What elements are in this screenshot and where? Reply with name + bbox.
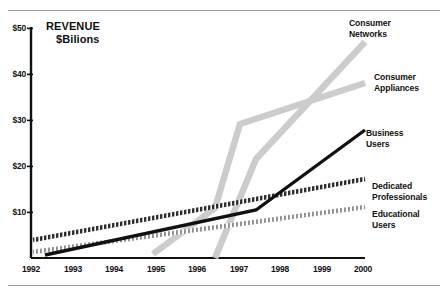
series-label-business-users-line1: Business: [366, 128, 403, 138]
series-label-business-users: Business Users: [366, 128, 403, 149]
series-label-consumer-networks-line1: Consumer: [349, 18, 391, 28]
x-tick-label-1994: 1994: [97, 265, 131, 274]
x-tick-label-1992: 1992: [14, 265, 48, 274]
series-label-educational-users-line1: Educational: [372, 209, 420, 219]
series-label-business-users-line2: Users: [366, 139, 389, 149]
series-label-dedicated-professionals-line1: Dedicated: [372, 181, 412, 191]
revenue-chart-figure: REVENUE $Bilions: [0, 0, 448, 294]
x-tick-label-1993: 1993: [56, 265, 90, 274]
series-label-consumer-appliances-line1: Consumer: [374, 72, 416, 82]
series-label-consumer-networks-line2: Networks: [349, 29, 387, 39]
series-label-educational-users: Educational Users: [372, 209, 420, 230]
series-line-business-users: [45, 130, 365, 255]
series-label-educational-users-line2: Users: [372, 220, 395, 230]
series-label-consumer-networks: Consumer Networks: [349, 18, 391, 39]
y-tick-label-50: $50: [2, 24, 26, 33]
y-tick-label-40: $40: [2, 70, 26, 79]
x-tick-label-1998: 1998: [263, 265, 297, 274]
x-tick-label-1999: 1999: [305, 265, 339, 274]
x-tick-label-1996: 1996: [180, 265, 214, 274]
y-tick-label-20: $20: [2, 162, 26, 171]
y-tick-label-30: $30: [2, 116, 26, 125]
x-tick-label-1995: 1995: [139, 265, 173, 274]
y-tick-label-10: $10: [2, 208, 26, 217]
series-label-dedicated-professionals: Dedicated Professionals: [372, 181, 427, 202]
x-tick-label-2000: 2000: [346, 265, 380, 274]
x-tick-label-1997: 1997: [222, 265, 256, 274]
series-label-consumer-appliances: Consumer Appliances: [374, 72, 419, 93]
series-label-consumer-appliances-line2: Appliances: [374, 83, 419, 93]
series-line-consumer-appliances: [153, 83, 365, 254]
series-label-dedicated-professionals-line2: Professionals: [372, 192, 427, 202]
